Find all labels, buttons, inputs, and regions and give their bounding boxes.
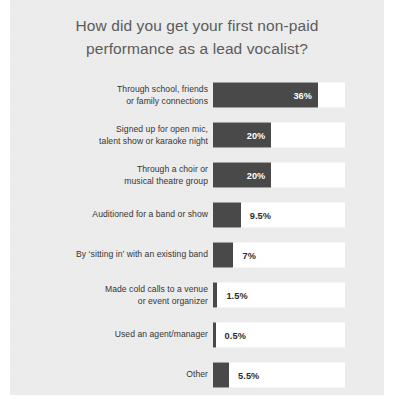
bar-row-label: By ‘sitting in’ with an existing band — [48, 249, 208, 261]
bar-row: Used an agent/manager0.5% — [10, 316, 384, 354]
bar-track: 7% — [213, 243, 345, 268]
bar-row: Other5.5% — [10, 356, 384, 394]
chart-card: How did you get your first non-paid perf… — [10, 0, 384, 395]
bar-fill: 20% — [213, 163, 271, 188]
bar-track: 0.5% — [213, 323, 345, 348]
bar-row-label: Through a choir ormusical theatre group — [48, 164, 208, 187]
bar-row: Auditioned for a band or show9.5% — [10, 196, 384, 234]
bar-row-label-line: Made cold calls to a venue — [48, 284, 208, 296]
bar-row-label-line: Signed up for open mic, — [48, 124, 208, 136]
bar-row: Made cold calls to a venueor event organ… — [10, 276, 384, 314]
bar-row-label: Used an agent/manager — [48, 329, 208, 341]
bar-track: 5.5% — [213, 363, 345, 388]
bar-track: 20% — [213, 123, 345, 148]
bar-value-label: 1.5% — [226, 290, 247, 300]
bar-row: Through a choir ormusical theatre group2… — [10, 156, 384, 194]
bar-fill — [213, 363, 229, 388]
bar-row-label: Signed up for open mic,talent show or ka… — [48, 124, 208, 147]
chart-title-line-1: How did you get your first non-paid — [10, 14, 384, 37]
bar-value-label: 36% — [293, 90, 312, 100]
bar-row-label: Through school, friendsor family connect… — [48, 84, 208, 107]
bar-row: By ‘sitting in’ with an existing band7% — [10, 236, 384, 274]
bar-row-label: Made cold calls to a venueor event organ… — [48, 284, 208, 307]
bar-fill — [213, 243, 233, 268]
bar-fill: 20% — [213, 123, 271, 148]
bar-track: 20% — [213, 163, 345, 188]
bar-row-label: Auditioned for a band or show — [48, 209, 208, 221]
bar-value-label: 20% — [247, 170, 266, 180]
bar-track: 9.5% — [213, 203, 345, 228]
bar-value-label: 0.5% — [225, 330, 246, 340]
bar-row-label-line: By ‘sitting in’ with an existing band — [48, 249, 208, 261]
bar-row: Signed up for open mic,talent show or ka… — [10, 116, 384, 154]
bar-row-label-line: musical theatre group — [48, 175, 208, 187]
bar-row-label-line: Through school, friends — [48, 84, 208, 96]
bar-row-label-line: Auditioned for a band or show — [48, 209, 208, 221]
bar-row-label-line: or family connections — [48, 95, 208, 107]
bar-row-label: Other — [48, 369, 208, 381]
bar-chart-rows: Through school, friendsor family connect… — [10, 76, 384, 396]
bar-row-label-line: Used an agent/manager — [48, 329, 208, 341]
bar-row-label-line: or event organizer — [48, 295, 208, 307]
bar-row: Through school, friendsor family connect… — [10, 76, 384, 114]
bar-fill — [213, 203, 241, 228]
bar-fill — [213, 323, 216, 348]
bar-value-label: 5.5% — [238, 370, 259, 380]
bar-fill: 36% — [213, 83, 318, 108]
bar-row-label-line: talent show or karaoke night — [48, 135, 208, 147]
chart-title-line-2: performance as a lead vocalist? — [10, 37, 384, 60]
bar-row-label-line: Other — [48, 369, 208, 381]
bar-value-label: 9.5% — [250, 210, 271, 220]
bar-track: 1.5% — [213, 283, 345, 308]
bar-track: 36% — [213, 83, 345, 108]
bar-value-label: 20% — [247, 130, 266, 140]
chart-title: How did you get your first non-paid perf… — [10, 14, 384, 60]
bar-value-label: 7% — [242, 250, 255, 260]
bar-fill — [213, 283, 217, 308]
bar-row-label-line: Through a choir or — [48, 164, 208, 176]
